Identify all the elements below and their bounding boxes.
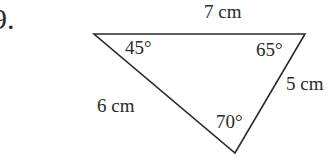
side-label-top: 7 cm: [204, 2, 241, 21]
side-label-right: 5 cm: [286, 74, 323, 93]
angle-label-bottom: 70°: [216, 112, 243, 131]
side-label-left: 6 cm: [97, 96, 134, 115]
angle-label-top-left: 45°: [125, 38, 152, 57]
angle-label-top-right: 65°: [256, 40, 283, 59]
